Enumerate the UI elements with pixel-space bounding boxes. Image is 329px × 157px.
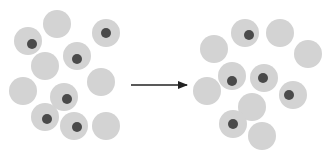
cell-circle (200, 35, 228, 63)
cell-nucleus-dot (62, 94, 72, 104)
cell-nucleus-dot (284, 90, 294, 100)
right-cell-7 (193, 77, 221, 105)
cell-nucleus-dot (72, 54, 82, 64)
right-cell-2 (266, 19, 294, 47)
left-cell-1 (43, 10, 71, 38)
cell-nucleus-dot (27, 39, 37, 49)
left-cluster (9, 10, 120, 140)
cell-nucleus-dot (244, 30, 254, 40)
right-cell-10 (219, 110, 247, 138)
cell-nucleus-dot (258, 73, 268, 83)
cell-circle (193, 77, 221, 105)
cell-nucleus-dot (101, 28, 111, 38)
cell-circle (43, 10, 71, 38)
left-cell-2 (14, 27, 42, 55)
right-cell-8 (279, 81, 307, 109)
right-cell-11 (248, 122, 276, 150)
cell-nucleus-dot (42, 114, 52, 124)
left-cell-5 (31, 52, 59, 80)
right-cell-1 (231, 19, 259, 47)
cell-cluster-diagram (0, 0, 329, 157)
right-cluster (193, 19, 322, 150)
right-cell-6 (250, 64, 278, 92)
cell-circle (87, 68, 115, 96)
left-cell-7 (9, 77, 37, 105)
left-cell-4 (63, 42, 91, 70)
left-cell-11 (92, 112, 120, 140)
cell-nucleus-dot (227, 76, 237, 86)
left-cell-9 (31, 103, 59, 131)
cell-circle (9, 77, 37, 105)
cell-circle (92, 112, 120, 140)
cell-circle (248, 122, 276, 150)
left-cell-3 (92, 19, 120, 47)
right-cell-3 (200, 35, 228, 63)
right-cell-5 (218, 62, 246, 90)
cell-circle (294, 40, 322, 68)
cell-nucleus-dot (228, 119, 238, 129)
left-cell-10 (60, 112, 88, 140)
cell-circle (266, 19, 294, 47)
cell-circle (31, 52, 59, 80)
left-cell-6 (87, 68, 115, 96)
right-cell-4 (294, 40, 322, 68)
cell-nucleus-dot (72, 122, 82, 132)
